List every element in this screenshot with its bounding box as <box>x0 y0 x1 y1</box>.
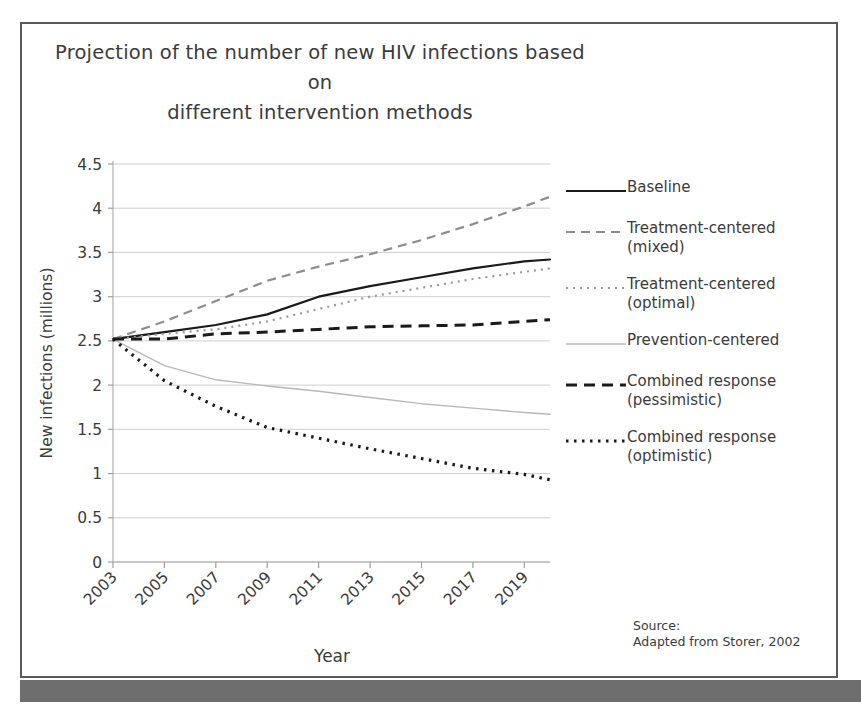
legend-line-sample <box>565 338 627 354</box>
legend-item-label: Treatment-centered (mixed) <box>627 219 775 257</box>
series-line <box>113 197 550 339</box>
legend-item[interactable]: Baseline <box>565 178 835 201</box>
legend-item-label: Baseline <box>627 178 691 197</box>
legend-item[interactable]: Prevention-centered <box>565 331 835 354</box>
legend-line-sample <box>565 226 627 242</box>
x-tick-label: 2019 <box>492 568 533 609</box>
y-tick-label: 4 <box>92 200 102 218</box>
x-tick-label: 2015 <box>389 568 430 609</box>
source-note: Source: Adapted from Storer, 2002 <box>633 618 833 650</box>
legend-item[interactable]: Combined response (optimistic) <box>565 428 835 466</box>
bottom-gray-bar <box>20 680 861 702</box>
source-label: Source: <box>633 618 833 634</box>
y-tick-label: 3 <box>92 288 102 306</box>
x-tick-label: 2017 <box>440 568 481 609</box>
y-tick-label: 1.5 <box>77 421 102 439</box>
legend-item-label: Prevention-centered <box>627 331 779 350</box>
legend-line-sample <box>565 379 627 395</box>
legend-item[interactable]: Treatment-centered (mixed) <box>565 219 835 257</box>
x-tick-label: 2011 <box>286 568 327 609</box>
legend-line-sample <box>565 185 627 201</box>
series-line <box>113 260 550 340</box>
legend-item-label: Combined response (optimistic) <box>627 428 776 466</box>
y-tick-label: 4.5 <box>77 156 102 174</box>
y-tick-label: 2.5 <box>77 332 102 350</box>
x-tick-label: 2009 <box>234 568 275 609</box>
x-tick-label: 2013 <box>337 568 378 609</box>
y-tick-label: 0 <box>92 554 102 572</box>
y-tick-label: 2 <box>92 377 102 395</box>
y-tick-label: 1 <box>92 465 102 483</box>
x-tick-label: 2005 <box>132 568 173 609</box>
source-citation: Adapted from Storer, 2002 <box>633 634 833 650</box>
legend-item-label: Treatment-centered (optimal) <box>627 275 775 313</box>
series-line <box>113 339 550 414</box>
y-axis-title: New infections (millions) <box>38 268 56 459</box>
legend-item[interactable]: Treatment-centered (optimal) <box>565 275 835 313</box>
y-tick-label: 3.5 <box>77 244 102 262</box>
x-tick-label: 2003 <box>80 568 121 609</box>
chart-legend: BaselineTreatment-centered (mixed)Treatm… <box>565 178 835 484</box>
legend-line-sample <box>565 435 627 451</box>
x-axis-title: Year <box>313 646 350 666</box>
x-tick-label: 2007 <box>183 568 224 609</box>
legend-item[interactable]: Combined response (pessimistic) <box>565 372 835 410</box>
legend-line-sample <box>565 282 627 298</box>
y-tick-label: 0.5 <box>77 509 102 527</box>
legend-item-label: Combined response (pessimistic) <box>627 372 776 410</box>
figure-page: Projection of the number of new HIV infe… <box>0 0 861 704</box>
